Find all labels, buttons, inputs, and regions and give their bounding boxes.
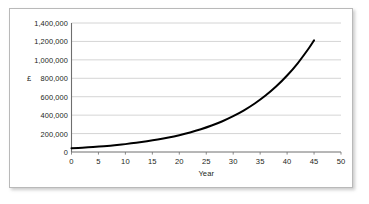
x-tick-label: 0 — [69, 157, 73, 166]
figure-root: 0200,000400,000600,000800,0001,000,0001,… — [0, 0, 369, 204]
x-tick-label: 5 — [96, 157, 100, 166]
x-tick-label: 30 — [229, 157, 238, 166]
x-tick-label: 25 — [202, 157, 211, 166]
x-tick-label: 35 — [256, 157, 265, 166]
x-tick-label: 45 — [310, 157, 319, 166]
y-axis-title: £ — [27, 74, 31, 83]
x-axis-title: Year — [198, 169, 214, 178]
x-tick-label: 15 — [148, 157, 157, 166]
x-axis-tick-labels: 05101520253035404550 — [0, 0, 369, 204]
x-tick-label: 20 — [175, 157, 184, 166]
x-tick-label: 50 — [337, 157, 346, 166]
x-tick-label: 40 — [283, 157, 292, 166]
x-tick-label: 10 — [121, 157, 130, 166]
